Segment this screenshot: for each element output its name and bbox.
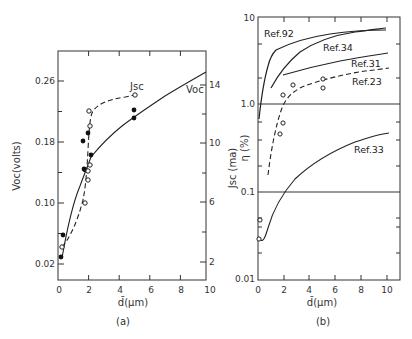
panel-a-x-axis-label: d̄(μm) [118, 296, 148, 308]
figure: 0 2 4 6 8 10 0.26 0.18 0.10 0.02 Voc(vol… [0, 0, 412, 339]
x-tick-label: 8 [358, 285, 364, 295]
x-tick-label: 4 [117, 285, 123, 295]
panel-b-x-axis-label: d̄(μm) [307, 296, 337, 308]
y-tick-label: 0.1 [241, 187, 255, 197]
x-tick-label: 6 [332, 285, 338, 295]
y-tick-label: 10 [244, 13, 256, 23]
jsc-curve [62, 95, 135, 247]
y-tick-label: 0.10 [35, 198, 55, 208]
y-tick-label: 0.02 [35, 259, 55, 269]
ref23-label: Ref.23 [352, 76, 382, 87]
x-tick-label: 0 [56, 285, 62, 295]
panel-b-x-tick-labels: 0 2 4 6 8 10 [255, 285, 393, 295]
ref92-label: Ref.92 [264, 28, 294, 39]
y-tick-label: 1.0 [241, 99, 256, 109]
x-tick-label: 6 [148, 285, 154, 295]
y2-tick-label: 10 [209, 138, 221, 148]
y2-tick-label: 14 [209, 80, 221, 90]
voc-annotation: Voc [186, 84, 204, 95]
x-tick-label: 10 [381, 285, 393, 295]
panel-a-caption: (a) [116, 316, 130, 327]
ref31-label: Ref.31 [351, 58, 381, 69]
jsc-annotation: Jsc [129, 81, 144, 92]
panel-b: 0 2 4 6 8 10 10 1.0 0.1 0.01 η (%) [235, 13, 400, 327]
ref33-label: Ref.33 [354, 144, 384, 155]
x-tick-label: 4 [306, 285, 312, 295]
jsc-points [60, 93, 137, 249]
panel-b-points [257, 77, 325, 241]
x-tick-label: 10 [204, 285, 216, 295]
panel-a-right-tick-labels: 14 10 6 2 [209, 80, 221, 267]
voc-points [59, 108, 137, 260]
y-tick-label: 0.26 [35, 76, 55, 86]
panel-a: 0 2 4 6 8 10 0.26 0.18 0.10 0.02 Voc(vol… [11, 51, 238, 327]
y-tick-label: 0.01 [235, 274, 255, 284]
ref34-label: Ref.34 [323, 42, 353, 53]
x-tick-label: 2 [281, 285, 287, 295]
panel-b-caption: (b) [316, 316, 330, 327]
y2-tick-label: 6 [209, 197, 215, 207]
panel-b-y-axis-label: η (%) [239, 134, 250, 161]
x-tick-label: 2 [86, 285, 92, 295]
panel-a-left-axis-label: Voc(volts) [11, 141, 22, 191]
panel-a-x-tick-labels: 0 2 4 6 8 10 [56, 285, 216, 295]
x-tick-label: 0 [255, 285, 261, 295]
y-tick-label: 0.18 [35, 137, 55, 147]
panel-a-right-axis-label: Jsc (ma) [227, 148, 238, 190]
panel-a-left-tick-labels: 0.26 0.18 0.10 0.02 [35, 76, 55, 269]
x-tick-label: 8 [178, 285, 184, 295]
y2-tick-label: 2 [209, 257, 215, 267]
panel-a-right-ticks [200, 85, 206, 262]
voc-curve [62, 72, 206, 258]
